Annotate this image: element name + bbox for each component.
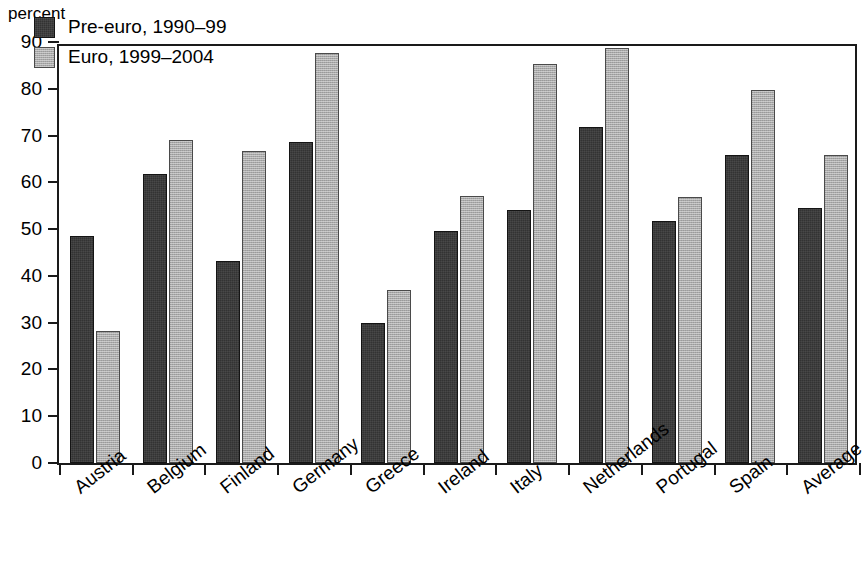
y-axis-tick-label: 40: [2, 265, 42, 287]
y-axis-tick-label: 10: [2, 405, 42, 427]
y-axis-tick: 30: [48, 322, 59, 324]
legend-item: Euro, 1999–2004: [34, 42, 294, 72]
bar-pre-euro: [798, 208, 822, 463]
bar-group: [725, 46, 775, 463]
x-axis-tick: [568, 463, 570, 475]
legend-swatch-pre: [34, 17, 55, 38]
bar-pre-euro: [579, 127, 603, 463]
x-axis-tick: [423, 463, 425, 475]
bar-euro: [169, 140, 193, 463]
bar-group: [798, 46, 848, 463]
y-axis-tick-label: 20: [2, 358, 42, 380]
bar-group: [579, 46, 629, 463]
legend-item: Pre-euro, 1990–99: [34, 12, 294, 42]
x-axis-tick: [786, 463, 788, 475]
bar-euro: [824, 155, 848, 463]
chart-legend: Pre-euro, 1990–99Euro, 1999–2004: [34, 12, 294, 72]
y-axis-tick: 50: [48, 228, 59, 230]
bar-euro: [387, 290, 411, 463]
bar-group: [289, 46, 339, 463]
bar-group: [216, 46, 266, 463]
bar-chart-figure: percent 0102030405060708090 Pre-euro, 19…: [0, 0, 868, 578]
y-axis-tick-label: 50: [2, 218, 42, 240]
bar-euro: [751, 90, 775, 463]
x-axis-tick: [859, 463, 861, 475]
y-axis-tick: 60: [48, 181, 59, 183]
y-axis-tick: 0: [48, 462, 59, 464]
bar-euro: [533, 64, 557, 463]
bar-euro: [678, 197, 702, 463]
bar-pre-euro: [361, 323, 385, 463]
x-axis-tick: [495, 463, 497, 475]
x-axis-tick: [132, 463, 134, 475]
x-axis-tick: [59, 463, 61, 475]
bar-euro: [315, 53, 339, 463]
bar-pre-euro: [725, 155, 749, 463]
bar-group: [652, 46, 702, 463]
x-axis-tick: [350, 463, 352, 475]
legend-label: Pre-euro, 1990–99: [68, 16, 226, 38]
bar-pre-euro: [289, 142, 313, 463]
y-axis-tick-label: 30: [2, 312, 42, 334]
bar-euro: [605, 48, 629, 463]
bar-pre-euro: [434, 231, 458, 463]
y-axis-tick-label: 60: [2, 171, 42, 193]
bar-pre-euro: [216, 261, 240, 463]
y-axis-tick: 70: [48, 135, 59, 137]
x-axis-tick: [641, 463, 643, 475]
plot-area: 0102030405060708090: [57, 44, 857, 465]
y-axis-tick-label: 0: [2, 452, 42, 474]
y-axis-tick: 40: [48, 275, 59, 277]
y-axis-tick-label: 70: [2, 125, 42, 147]
bar-pre-euro: [507, 210, 531, 463]
legend-swatch-euro: [34, 47, 55, 68]
y-axis-tick: 10: [48, 415, 59, 417]
bar-group: [70, 46, 120, 463]
bar-euro: [96, 331, 120, 463]
bar-euro: [460, 196, 484, 463]
bar-group: [361, 46, 411, 463]
x-axis-tick: [714, 463, 716, 475]
x-axis-category-label: Italy: [506, 460, 546, 498]
legend-label: Euro, 1999–2004: [68, 46, 214, 68]
y-axis-tick: 80: [48, 88, 59, 90]
y-axis-tick-label: 80: [2, 78, 42, 100]
y-axis-tick: 20: [48, 368, 59, 370]
x-axis-tick: [277, 463, 279, 475]
bar-pre-euro: [143, 174, 167, 463]
bar-pre-euro: [70, 236, 94, 463]
bar-group: [507, 46, 557, 463]
bar-euro: [242, 151, 266, 463]
bar-group: [434, 46, 484, 463]
x-axis-tick: [204, 463, 206, 475]
bar-group: [143, 46, 193, 463]
